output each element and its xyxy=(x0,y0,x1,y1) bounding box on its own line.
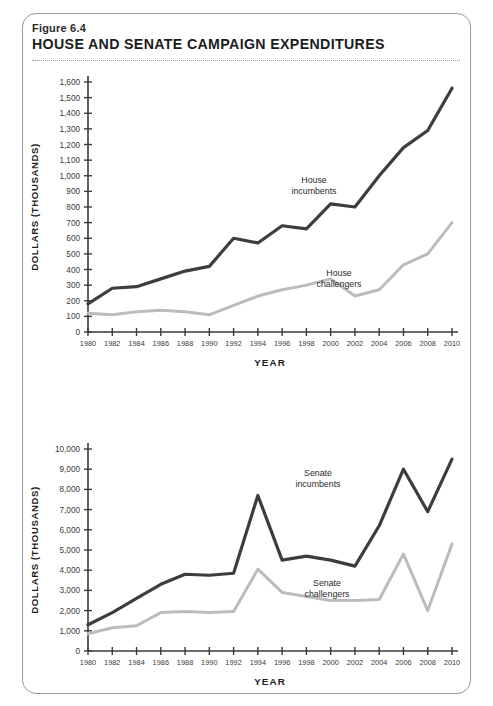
series-annotation: Senate xyxy=(313,578,341,588)
x-tick-label: 1988 xyxy=(177,339,193,348)
series-annotation: House xyxy=(326,268,352,278)
figure-page: Figure 6.4 HOUSE AND SENATE CAMPAIGN EXP… xyxy=(0,0,493,706)
x-tick-label: 2004 xyxy=(371,658,387,667)
y-axis-title: DOLLARS (THOUSANDS) xyxy=(29,143,40,271)
y-tick-label: 10,000 xyxy=(55,445,80,454)
y-tick-label: 400 xyxy=(66,266,80,275)
series-line-senate-challengers xyxy=(88,544,452,634)
y-tick-label: 700 xyxy=(66,219,80,228)
y-tick-label: 0 xyxy=(75,328,80,337)
series-annotation: challengers xyxy=(317,279,363,289)
y-tick-label: 100 xyxy=(66,312,80,321)
x-tick-label: 2002 xyxy=(347,658,363,667)
x-tick-label: 1990 xyxy=(201,339,217,348)
x-tick-label: 1992 xyxy=(225,658,241,667)
y-axis-title: DOLLARS (THOUSANDS) xyxy=(29,486,40,614)
y-tick-label: 0 xyxy=(75,647,80,656)
x-tick-label: 1996 xyxy=(274,658,290,667)
y-tick-label: 9,000 xyxy=(60,465,81,474)
y-tick-label: 800 xyxy=(66,203,80,212)
x-axis-title: YEAR xyxy=(254,676,286,687)
y-tick-label: 7,000 xyxy=(60,506,81,515)
x-tick-label: 1980 xyxy=(80,658,96,667)
senate-chart-svg: 01,0002,0003,0004,0005,0006,0007,0008,00… xyxy=(22,408,471,696)
x-tick-label: 2000 xyxy=(322,658,338,667)
series-annotation: incumbents xyxy=(292,186,338,196)
y-tick-label: 1,000 xyxy=(60,627,81,636)
series-line-house-challengers xyxy=(88,223,452,315)
title-divider xyxy=(32,60,460,61)
y-tick-label: 8,000 xyxy=(60,485,81,494)
x-tick-label: 2010 xyxy=(444,658,460,667)
x-axis-title: YEAR xyxy=(254,357,286,368)
x-tick-label: 2002 xyxy=(347,339,363,348)
x-tick-label: 1982 xyxy=(104,658,120,667)
house-chart-svg: 01002003004005006007008009001,0001,1001,… xyxy=(22,68,471,378)
series-annotation: Senate xyxy=(304,468,332,478)
x-tick-label: 1994 xyxy=(250,658,266,667)
y-tick-label: 900 xyxy=(66,187,80,196)
house-expenditures-chart: 01002003004005006007008009001,0001,1001,… xyxy=(22,68,471,378)
x-tick-label: 1988 xyxy=(177,658,193,667)
x-tick-label: 1998 xyxy=(298,339,314,348)
figure-number: Figure 6.4 xyxy=(32,22,86,34)
y-tick-label: 1,400 xyxy=(60,109,81,118)
y-tick-label: 1,200 xyxy=(60,141,81,150)
x-tick-label: 2004 xyxy=(371,339,387,348)
series-annotation: incumbents xyxy=(296,479,342,489)
y-tick-label: 2,000 xyxy=(60,607,81,616)
x-tick-label: 1984 xyxy=(128,658,144,667)
y-tick-label: 5,000 xyxy=(60,546,81,555)
series-line-senate-incumbents xyxy=(88,459,452,625)
x-tick-label: 1982 xyxy=(104,339,120,348)
x-tick-label: 2008 xyxy=(420,658,436,667)
y-tick-label: 6,000 xyxy=(60,526,81,535)
x-tick-label: 2006 xyxy=(395,339,411,348)
x-tick-label: 1992 xyxy=(225,339,241,348)
series-annotation: challengers xyxy=(305,589,351,599)
y-tick-label: 1,500 xyxy=(60,94,81,103)
series-annotation: House xyxy=(301,175,327,185)
x-tick-label: 1998 xyxy=(298,658,314,667)
senate-expenditures-chart: 01,0002,0003,0004,0005,0006,0007,0008,00… xyxy=(22,408,471,696)
y-tick-label: 600 xyxy=(66,234,80,243)
y-tick-label: 1,000 xyxy=(60,172,81,181)
figure-title: HOUSE AND SENATE CAMPAIGN EXPENDITURES xyxy=(32,36,385,52)
x-tick-label: 1994 xyxy=(250,339,266,348)
y-tick-label: 3,000 xyxy=(60,586,81,595)
x-tick-label: 1980 xyxy=(80,339,96,348)
x-tick-label: 2008 xyxy=(420,339,436,348)
x-tick-label: 2010 xyxy=(444,339,460,348)
x-tick-label: 1986 xyxy=(153,658,169,667)
x-tick-label: 2006 xyxy=(395,658,411,667)
y-tick-label: 1,600 xyxy=(60,78,81,87)
y-tick-label: 1,100 xyxy=(60,156,81,165)
x-tick-label: 1986 xyxy=(153,339,169,348)
x-tick-label: 1996 xyxy=(274,339,290,348)
y-tick-label: 4,000 xyxy=(60,566,81,575)
x-tick-label: 2000 xyxy=(322,339,338,348)
y-tick-label: 200 xyxy=(66,297,80,306)
x-tick-label: 1984 xyxy=(128,339,144,348)
y-tick-label: 1,300 xyxy=(60,125,81,134)
y-tick-label: 300 xyxy=(66,281,80,290)
x-tick-label: 1990 xyxy=(201,658,217,667)
y-tick-label: 500 xyxy=(66,250,80,259)
